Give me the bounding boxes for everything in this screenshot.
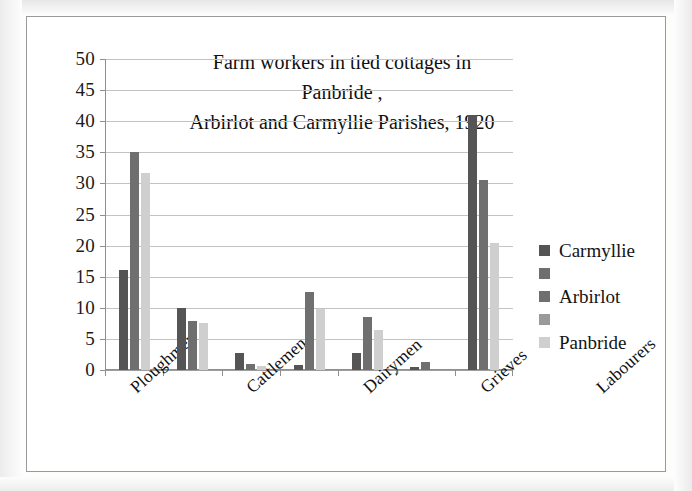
- bar: [468, 115, 477, 370]
- chart-legend: CarmyllieArbirlotPanbride: [539, 239, 669, 354]
- y-axis-tick: [100, 183, 105, 184]
- category-axis-tick: [222, 370, 223, 376]
- bar: [479, 180, 488, 370]
- y-axis-tick: [100, 246, 105, 247]
- legend-item-unlabeled: [539, 262, 669, 285]
- category-axis-tick: [105, 370, 106, 376]
- bar: [199, 323, 208, 370]
- y-axis-tick-label: 20: [75, 235, 95, 257]
- y-axis-tick-label: 10: [75, 297, 95, 319]
- bar: [363, 317, 372, 370]
- gridline: [105, 121, 513, 122]
- y-axis-tick-label: 15: [75, 266, 95, 288]
- y-axis-tick: [100, 339, 105, 340]
- bar-group: No of Farms: [468, 115, 499, 370]
- scanned-page: Farm workers in tied cottages in Panbrid…: [0, 0, 692, 491]
- gridline: [105, 90, 513, 91]
- bar: [316, 309, 325, 370]
- bar-group: Labourers: [352, 317, 383, 370]
- bar: [257, 366, 266, 370]
- category-axis-tick: [338, 370, 339, 376]
- y-axis-tick-label: 50: [75, 48, 95, 70]
- legend-swatch: [539, 314, 550, 325]
- bar-group: Ploughmen: [119, 152, 150, 370]
- y-axis-tick: [100, 308, 105, 309]
- legend-label: Panbride: [559, 332, 627, 354]
- y-axis-tick: [100, 215, 105, 216]
- legend-label: Carmyllie: [559, 240, 635, 262]
- bar: [352, 353, 361, 370]
- legend-item-carmyllie: Carmyllie: [539, 239, 669, 262]
- scan-edge-top: [0, 0, 692, 14]
- legend-item-panbride: Panbride: [539, 331, 669, 354]
- y-axis-tick: [100, 152, 105, 153]
- category-axis-tick: [455, 370, 456, 376]
- legend-swatch: [539, 245, 550, 256]
- y-axis-tick-label: 35: [75, 141, 95, 163]
- bar: [130, 152, 139, 370]
- legend-item-arbirlot: Arbirlot: [539, 285, 669, 308]
- y-axis-tick-label: 40: [75, 110, 95, 132]
- gridline: [105, 183, 513, 184]
- scan-edge-right: [674, 0, 692, 491]
- gridline: [105, 152, 513, 153]
- bar-group: Shepherds: [410, 362, 441, 370]
- gridline: [105, 277, 513, 278]
- legend-swatch: [539, 268, 550, 279]
- bar: [374, 330, 383, 370]
- y-axis-tick: [100, 121, 105, 122]
- bar: [490, 243, 499, 371]
- legend-item-unlabeled: [539, 308, 669, 331]
- bar: [177, 308, 186, 370]
- y-axis-tick-label: 45: [75, 79, 95, 101]
- y-axis-tick: [100, 90, 105, 91]
- scan-edge-bottom: [0, 477, 692, 491]
- gridline: [105, 246, 513, 247]
- bar-group: Cattlemen: [177, 308, 208, 370]
- gridline: [105, 215, 513, 216]
- y-axis-tick: [100, 59, 105, 60]
- y-axis-tick-label: 5: [85, 328, 95, 350]
- value-axis: [105, 59, 106, 370]
- legend-label: Arbirlot: [559, 286, 620, 308]
- chart-frame: Farm workers in tied cottages in Panbrid…: [26, 16, 666, 472]
- bar: [410, 367, 419, 370]
- gridline: [105, 59, 513, 60]
- plot-area: 05101520253035404550 PloughmenCattlemenD…: [105, 59, 513, 370]
- bar: [235, 353, 244, 370]
- bar: [119, 270, 128, 370]
- y-axis-tick: [100, 277, 105, 278]
- bar: [421, 362, 430, 370]
- legend-swatch: [539, 337, 550, 348]
- y-axis-tick-label: 0: [85, 359, 95, 381]
- bar: [141, 173, 150, 370]
- bar-group: Grieves: [294, 292, 325, 370]
- bar: [305, 292, 314, 370]
- bar: [294, 365, 303, 370]
- bar: [246, 364, 255, 370]
- legend-swatch: [539, 291, 550, 302]
- bar: [188, 321, 197, 370]
- bar-group: Dairymen: [235, 353, 266, 370]
- scan-edge-left: [0, 0, 22, 491]
- y-axis-tick-label: 30: [75, 172, 95, 194]
- y-axis-tick-label: 25: [75, 204, 95, 226]
